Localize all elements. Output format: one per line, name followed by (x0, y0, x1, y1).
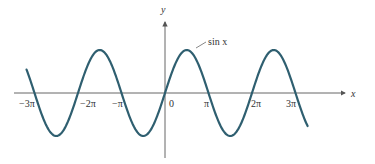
sine-chart: y x sin x −3π −2π −π 0 π 2π 3π (0, 0, 375, 164)
tick-label-zero: 0 (169, 98, 174, 109)
curve-label: sin x (208, 36, 227, 47)
tick-label-pi: π (204, 98, 209, 109)
tick-label-neg2pi: −2π (80, 98, 96, 109)
tick-label-negpi: −π (112, 98, 123, 109)
y-axis-label: y (160, 4, 166, 15)
curve-label-leader (196, 42, 206, 48)
tick-label-2pi: 2π (251, 98, 261, 109)
tick-label-3pi: 3π (286, 98, 296, 109)
tick-label-neg3pi: −3π (19, 98, 35, 109)
x-axis-label: x (350, 88, 356, 99)
